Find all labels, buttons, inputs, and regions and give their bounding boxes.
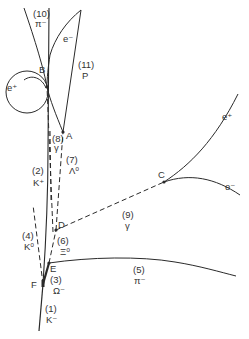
- vertex-d-label: D: [58, 219, 65, 230]
- track-b-electron: [47, 10, 81, 87]
- vertex-f-mark: [42, 280, 45, 287]
- track-9-gamma: [56, 182, 164, 230]
- track-6-number: (6): [57, 235, 69, 246]
- vertex-c-label: C: [158, 169, 165, 180]
- track-5-particle: π⁻: [134, 275, 146, 286]
- b-electron-label: e⁻: [63, 33, 73, 44]
- track-11-particle: P: [82, 70, 88, 81]
- vertex-a-label: A: [66, 130, 73, 141]
- track-6-xizero: [49, 230, 56, 263]
- track-7-particle: Λ⁰: [69, 165, 79, 176]
- track-4-number: (4): [22, 230, 34, 241]
- track-lambda-piminus: [47, 87, 63, 132]
- track-7-number: (7): [66, 154, 78, 165]
- track-c-positron: [164, 94, 238, 182]
- track-9-number: (9): [122, 209, 134, 220]
- track-1-particle: K⁻: [46, 314, 57, 325]
- track-3-particle: Ω⁻: [53, 285, 65, 296]
- bubble-chamber-diagram: A B C D E F (10) π⁻ (11) P e⁻ e⁺ (8) γ (…: [0, 0, 249, 339]
- track-8-particle: γ: [54, 142, 59, 153]
- b-positron-label: e⁺: [7, 82, 17, 93]
- track-2-particle: K⁺: [33, 177, 44, 188]
- vertex-b-label: B: [39, 64, 45, 75]
- track-6-particle: Ξ⁰: [60, 246, 70, 257]
- c-electron-label: e⁻: [225, 181, 235, 192]
- track-8-gamma-companion: [50, 130, 51, 200]
- c-positron-label: e⁺: [222, 111, 232, 122]
- track-1-number: (1): [45, 303, 57, 314]
- vertex-c-dot: [162, 180, 165, 183]
- vertex-b-dot: [45, 85, 48, 88]
- vertex-e-label: E: [50, 263, 56, 274]
- track-1-kminus: [39, 284, 43, 331]
- vertex-f-label: F: [31, 279, 37, 290]
- track-3-number: (3): [50, 274, 62, 285]
- track-2-number: (2): [32, 165, 44, 176]
- track-10-particle: π⁻: [35, 18, 47, 29]
- track-2-kplus: [43, 8, 49, 284]
- track-4-kzero: [33, 205, 43, 284]
- track-9-particle: γ: [125, 220, 130, 231]
- track-11-number: (11): [78, 59, 94, 70]
- track-5-number: (5): [133, 264, 145, 275]
- track-4-particle: K⁰: [24, 241, 34, 252]
- track-11-proton: [63, 10, 81, 132]
